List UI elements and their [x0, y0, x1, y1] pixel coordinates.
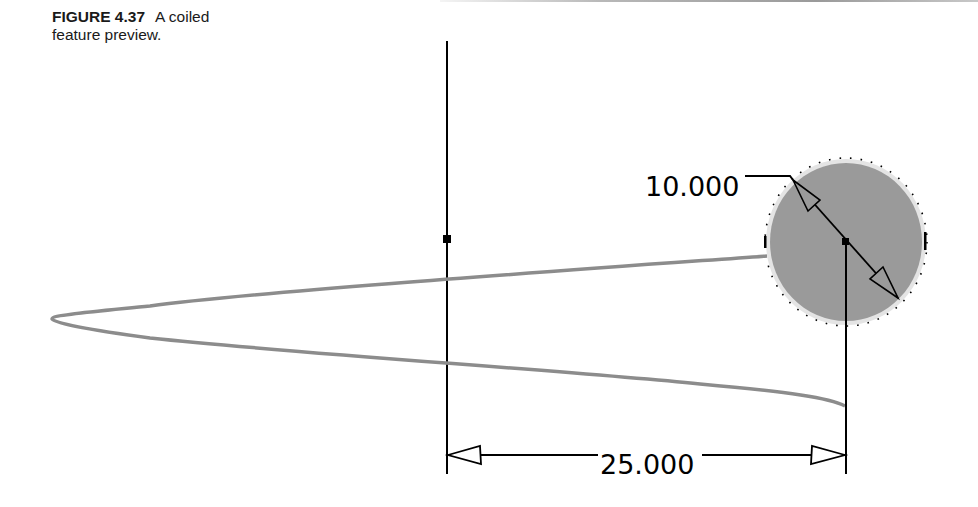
pitch-dimension[interactable]: 25.000	[447, 446, 846, 480]
axis-endpoint-handle[interactable]	[443, 235, 451, 243]
diameter-value[interactable]: 10.000	[645, 171, 739, 202]
pitch-value[interactable]: 25.000	[600, 449, 694, 480]
sweep-path-curve[interactable]	[52, 256, 845, 406]
arrowhead-icon	[448, 446, 481, 464]
coil-preview-drawing: 10.000 25.000	[0, 0, 978, 507]
arrowhead-icon	[811, 446, 845, 464]
